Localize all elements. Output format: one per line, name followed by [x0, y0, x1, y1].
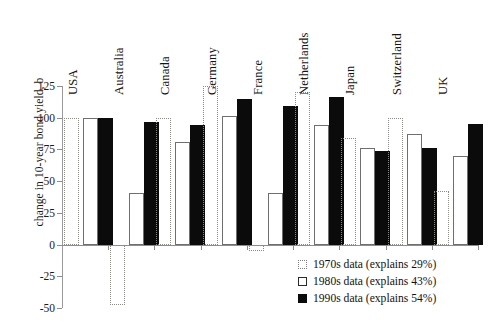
y-tick-mark	[57, 86, 62, 87]
bar-usa-1990s	[98, 118, 113, 245]
x-tick-mark	[201, 245, 202, 250]
chart-legend: 1970s data (explains 29%)1980s data (exp…	[298, 256, 436, 307]
category-label-germany: Germany	[205, 47, 220, 95]
category-label-japan: Japan	[343, 66, 358, 95]
bar-switzerland-1970s	[388, 118, 403, 245]
legend-item: 1980s data (explains 43%)	[298, 273, 436, 290]
bar-uk-1980s	[453, 156, 468, 245]
x-tick-mark	[432, 245, 433, 250]
y-tick-label: 0	[49, 239, 55, 251]
x-tick-mark	[293, 245, 294, 250]
y-tick-mark	[57, 118, 62, 119]
y-tick-label: -50	[40, 302, 55, 314]
y-tick-mark	[57, 276, 62, 277]
legend-item: 1970s data (explains 29%)	[298, 256, 436, 273]
bar-canada-1970s	[156, 118, 171, 245]
y-tick-label: 50	[44, 175, 56, 187]
category-label-france: France	[251, 60, 266, 95]
category-label-usa: USA	[66, 69, 81, 95]
category-label-netherlands: Netherlands	[297, 32, 312, 95]
category-label-uk: UK	[436, 77, 451, 95]
y-tick-mark	[57, 308, 62, 309]
bar-france-1970s	[249, 245, 264, 251]
y-tick-mark	[57, 213, 62, 214]
bar-japan-1980s	[360, 148, 375, 244]
bar-australia-1980s	[129, 193, 144, 245]
bar-germany-1990s	[237, 99, 252, 245]
y-tick-label: 25	[44, 207, 56, 219]
x-tick-mark	[247, 245, 248, 250]
legend-swatch-1990s	[298, 294, 307, 303]
y-tick-mark	[57, 245, 62, 246]
legend-label: 1970s data (explains 29%)	[313, 258, 436, 271]
y-tick-label: 125	[38, 80, 55, 92]
x-tick-mark	[339, 245, 340, 250]
y-tick-label: 75	[44, 143, 56, 155]
legend-label: 1990s data (explains 54%)	[313, 292, 436, 305]
legend-swatch-1980s	[298, 277, 307, 286]
category-label-australia: Australia	[112, 47, 127, 95]
bar-usa-1970s	[64, 118, 79, 245]
legend-label: 1980s data (explains 43%)	[313, 275, 436, 288]
bar-chart-figure: change in 10-year bond yield, b 12510075…	[0, 0, 490, 333]
bar-france-1980s	[268, 193, 283, 245]
y-tick-mark	[57, 181, 62, 182]
bar-canada-1980s	[175, 142, 190, 245]
x-tick-mark	[108, 245, 109, 250]
bar-usa-1980s	[83, 118, 98, 245]
bar-netherlands-1970s	[295, 92, 310, 244]
y-tick-mark	[57, 149, 62, 150]
bar-germany-1970s	[203, 86, 218, 245]
x-tick-mark	[154, 245, 155, 250]
bar-japan-1970s	[341, 138, 356, 245]
bar-uk-1970s	[434, 191, 449, 244]
bar-switzerland-1980s	[407, 134, 422, 244]
x-tick-mark	[386, 245, 387, 250]
bar-uk-1990s	[468, 124, 483, 245]
bar-netherlands-1980s	[314, 125, 329, 244]
legend-item: 1990s data (explains 54%)	[298, 290, 436, 307]
y-tick-label: 100	[38, 112, 55, 124]
category-label-switzerland: Switzerland	[390, 33, 405, 95]
y-tick-label: -25	[40, 270, 55, 282]
bar-germany-1980s	[222, 116, 237, 244]
y-axis-line	[62, 86, 63, 308]
bar-australia-1970s	[110, 245, 125, 306]
category-label-canada: Canada	[158, 56, 173, 95]
legend-swatch-1970s	[298, 260, 307, 269]
x-tick-mark	[478, 245, 479, 250]
